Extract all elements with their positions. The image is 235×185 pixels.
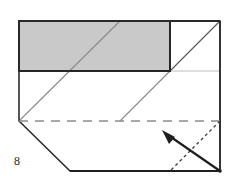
- origami-diagram: [0, 0, 235, 185]
- pivot-dot: [218, 169, 222, 173]
- origami-figure-panel: 8: [0, 0, 235, 185]
- figure-number: 8: [14, 154, 20, 168]
